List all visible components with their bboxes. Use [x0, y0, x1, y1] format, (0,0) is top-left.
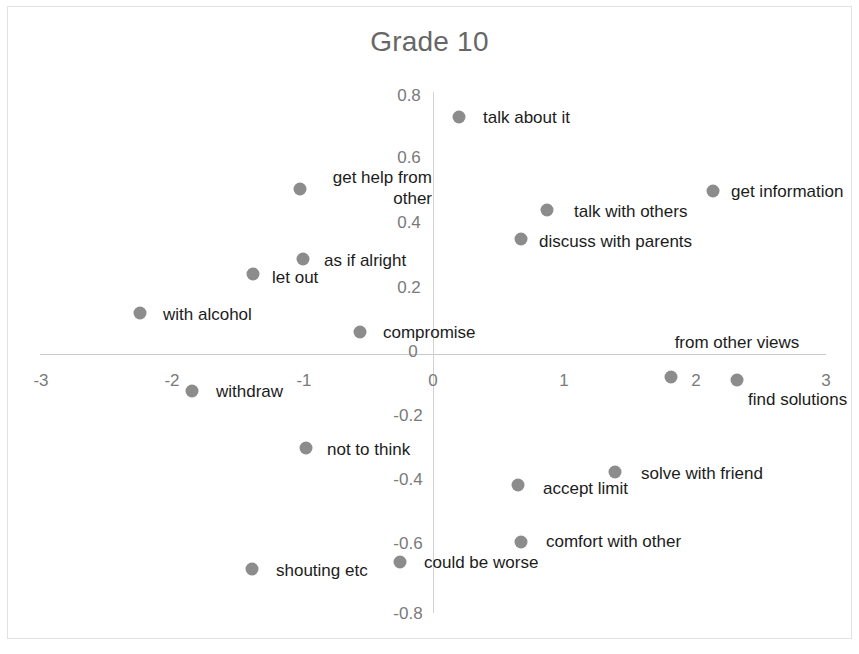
x-tick-label-1: 1: [559, 371, 568, 391]
y-tick-label-0.6: 0.6: [397, 148, 421, 168]
point-label-as-if-alright: as if alright: [324, 250, 406, 271]
data-point-with-alcohol[interactable]: [134, 307, 147, 320]
point-label-compromise: compromise: [383, 322, 476, 343]
point-label-discuss-with-parents: discuss with parents: [539, 231, 692, 252]
data-point-talk-about-it[interactable]: [453, 111, 466, 124]
scatter-plot: Grade 10 -3 -2 -1 0 1 2 3 0.8 0.6 0.4 0.…: [0, 0, 859, 654]
point-label-shouting-etc: shouting etc: [276, 560, 368, 581]
y-tick-label--0.6: -0.6: [393, 534, 422, 554]
x-tick-label-0: 0: [428, 371, 437, 391]
data-point-compromise[interactable]: [354, 326, 367, 339]
point-label-get-information: get information: [731, 181, 843, 202]
point-label-talk-with-others: talk with others: [574, 201, 687, 222]
y-tick-label-0.4: 0.4: [397, 213, 421, 233]
data-point-could-be-worse[interactable]: [394, 556, 407, 569]
point-label-not-to-think: not to think: [327, 439, 410, 460]
data-point-not-to-think[interactable]: [300, 442, 313, 455]
data-point-shouting-etc[interactable]: [246, 563, 259, 576]
y-tick-label-0.2: 0.2: [397, 278, 421, 298]
screenshot-page: Grade 10 -3 -2 -1 0 1 2 3 0.8 0.6 0.4 0.…: [0, 0, 859, 654]
point-label-accept-limit: accept limit: [543, 478, 628, 499]
data-point-withdraw[interactable]: [186, 385, 199, 398]
point-label-talk-about-it: talk about it: [483, 107, 570, 128]
point-label-get-help-from-other: get help fromother: [322, 167, 432, 209]
data-point-as-if-alright[interactable]: [297, 253, 310, 266]
point-label-withdraw: withdraw: [216, 381, 283, 402]
point-label-solve-with-friend: solve with friend: [641, 463, 763, 484]
y-tick-label--0.4: -0.4: [393, 470, 422, 490]
data-point-get-help-from-other[interactable]: [294, 183, 307, 196]
y-tick-label--0.2: -0.2: [393, 406, 422, 426]
data-point-get-information[interactable]: [707, 185, 720, 198]
data-point-let-out[interactable]: [247, 268, 260, 281]
data-point-comfort-with-other[interactable]: [515, 536, 528, 549]
data-point-talk-with-others[interactable]: [541, 204, 554, 217]
data-point-unlabeled[interactable]: [665, 371, 678, 384]
point-label-could-be-worse: could be worse: [424, 552, 538, 573]
data-point-discuss-with-parents[interactable]: [515, 233, 528, 246]
y-tick-label-0.8: 0.8: [397, 86, 421, 106]
point-label-find-solutions: find solutions: [748, 389, 847, 410]
y-axis-line: [433, 92, 434, 613]
y-tick-label-0: 0: [408, 342, 417, 362]
point-label-with-alcohol: with alcohol: [163, 304, 252, 325]
data-point-find-solutions[interactable]: [731, 374, 744, 387]
point-label-let-out: let out: [272, 267, 318, 288]
x-tick-label-2: 2: [691, 371, 700, 391]
x-tick-label--2: -2: [164, 371, 179, 391]
chart-title: Grade 10: [0, 26, 859, 58]
axis-annotation-from-other-views: from other views: [675, 333, 800, 353]
x-tick-label--3: -3: [33, 371, 48, 391]
point-label-comfort-with-other: comfort with other: [546, 531, 681, 552]
y-tick-label--0.8: -0.8: [393, 604, 422, 624]
data-point-accept-limit[interactable]: [512, 479, 525, 492]
x-tick-label--1: -1: [296, 371, 311, 391]
